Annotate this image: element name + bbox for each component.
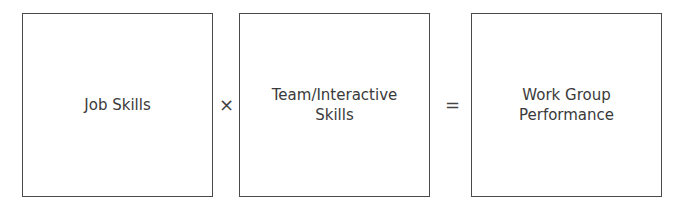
label-line: Job Skills xyxy=(84,95,150,115)
box-label: Team/Interactive Skills xyxy=(272,85,398,125)
multiply-operator: × xyxy=(219,94,234,115)
label-line: Work Group xyxy=(519,85,614,105)
box-label: Work Group Performance xyxy=(519,85,614,125)
team-interactive-skills-box: Team/Interactive Skills xyxy=(239,13,430,197)
work-group-performance-box: Work Group Performance xyxy=(471,13,662,197)
label-line: Skills xyxy=(272,105,398,125)
label-line: Team/Interactive xyxy=(272,85,398,105)
job-skills-box: Job Skills xyxy=(22,13,213,197)
equals-operator: = xyxy=(445,94,460,115)
label-line: Performance xyxy=(519,105,614,125)
box-label: Job Skills xyxy=(84,95,150,115)
